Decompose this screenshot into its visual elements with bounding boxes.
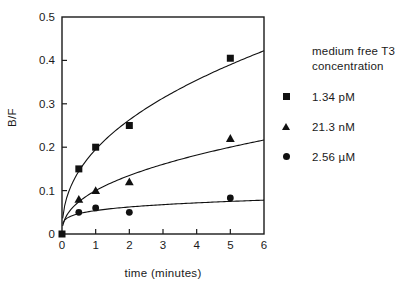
x-tick-label: 4 — [193, 239, 200, 251]
legend-title-line2: concentration — [312, 59, 398, 74]
legend-item-2-56-uM: 2.56 µM — [280, 149, 398, 164]
legend-label-2-56-uM: 2.56 µM — [312, 151, 355, 163]
x-tick-label: 6 — [261, 239, 267, 251]
square-marker-icon — [283, 93, 290, 100]
legend-item-1-34-pM: 1.34 pM — [280, 89, 398, 104]
data-point-circle — [92, 205, 99, 212]
x-tick-label: 2 — [126, 239, 132, 251]
data-point-triangle — [226, 134, 235, 142]
x-axis-label: time (minutes) — [63, 267, 263, 281]
triangle-marker-icon — [282, 123, 290, 130]
x-tick-label: 5 — [227, 239, 233, 251]
data-point-triangle — [125, 178, 134, 186]
data-point-square — [227, 55, 234, 62]
chart-figure: 012345600.10.20.30.40.5 B/F time (minute… — [0, 0, 403, 293]
legend-title-line1: medium free T3 — [312, 44, 398, 59]
legend: medium free T3 concentration 1.34 pM 21.… — [280, 44, 398, 164]
y-tick-label: 0.5 — [39, 11, 55, 23]
y-tick-label: 0.4 — [39, 54, 56, 66]
legend-item-21-3-nM: 21.3 nM — [280, 119, 398, 134]
y-tick-label: 0.1 — [39, 185, 55, 197]
data-point-square — [92, 144, 99, 151]
fit-curve-series-2 — [63, 200, 264, 223]
legend-label-1-34-pM: 1.34 pM — [312, 91, 355, 103]
y-tick-label: 0 — [49, 228, 55, 240]
data-point-circle — [227, 195, 234, 202]
data-point-circle — [126, 209, 133, 216]
marker-cell — [280, 123, 292, 130]
data-point-triangle — [91, 186, 100, 194]
legend-label-21-3-nM: 21.3 nM — [312, 121, 355, 133]
data-point-square — [75, 165, 82, 172]
data-point-circle — [75, 209, 82, 216]
data-point-square — [59, 231, 66, 238]
marker-cell — [280, 153, 292, 160]
y-axis-label: B/F — [6, 63, 19, 173]
x-tick-label: 3 — [160, 239, 166, 251]
data-point-square — [126, 122, 133, 129]
marker-cell — [280, 93, 292, 100]
circle-marker-icon — [283, 153, 290, 160]
y-tick-label: 0.3 — [39, 98, 55, 110]
y-tick-label: 0.2 — [39, 141, 55, 153]
x-tick-label: 1 — [92, 239, 98, 251]
legend-title: medium free T3 concentration — [312, 44, 398, 74]
x-tick-label: 0 — [59, 239, 65, 251]
